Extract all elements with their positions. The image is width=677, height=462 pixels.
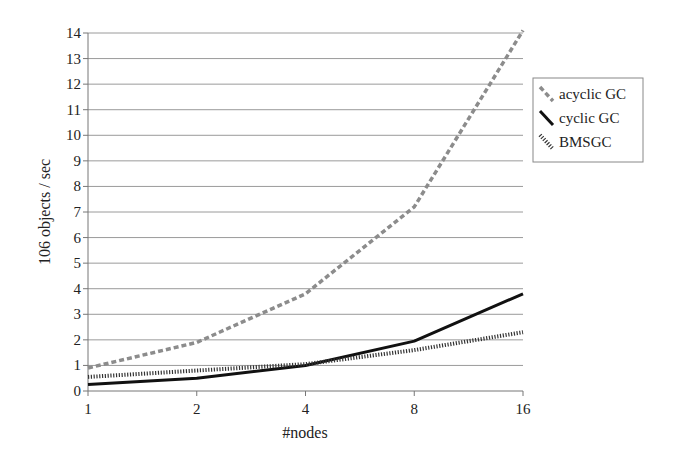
y-tick-label: 11 xyxy=(67,102,81,118)
x-tick-label: 16 xyxy=(516,401,532,417)
series-cyclic-gc xyxy=(88,294,523,385)
y-tick-label: 5 xyxy=(74,255,82,271)
x-axis-ticks: 124816 xyxy=(84,391,531,417)
y-tick-label: 14 xyxy=(66,25,82,41)
x-tick-label: 8 xyxy=(411,401,419,417)
x-tick-label: 4 xyxy=(302,401,310,417)
y-tick-label: 6 xyxy=(74,230,82,246)
legend: acyclic GCcyclic GCBMSGC xyxy=(533,78,643,162)
x-tick-label: 1 xyxy=(84,401,92,417)
y-tick-label: 10 xyxy=(66,127,81,143)
x-tick-label: 2 xyxy=(193,401,201,417)
y-axis-ticks: 01234567891011121314 xyxy=(66,25,88,399)
series-lines xyxy=(88,30,523,384)
series-acyclic-gc xyxy=(88,30,523,368)
y-tick-label: 9 xyxy=(74,153,82,169)
legend-label: BMSGC xyxy=(559,134,612,150)
y-tick-label: 7 xyxy=(74,204,82,220)
y-tick-label: 1 xyxy=(74,357,82,373)
y-tick-label: 3 xyxy=(74,306,82,322)
gridlines xyxy=(88,33,523,365)
series-bmsgc xyxy=(88,332,523,377)
x-axis-title: #nodes xyxy=(282,424,327,441)
legend-label: cyclic GC xyxy=(559,110,619,126)
legend-label: acyclic GC xyxy=(559,86,626,102)
line-chart: 01234567891011121314 124816 #nodes 106 o… xyxy=(0,0,677,462)
y-tick-label: 13 xyxy=(66,51,81,67)
y-tick-label: 0 xyxy=(74,383,82,399)
y-tick-label: 12 xyxy=(66,76,81,92)
y-tick-label: 8 xyxy=(74,178,82,194)
y-axis-title: 106 objects / sec xyxy=(36,159,54,265)
y-tick-label: 2 xyxy=(74,332,82,348)
y-tick-label: 4 xyxy=(74,281,82,297)
